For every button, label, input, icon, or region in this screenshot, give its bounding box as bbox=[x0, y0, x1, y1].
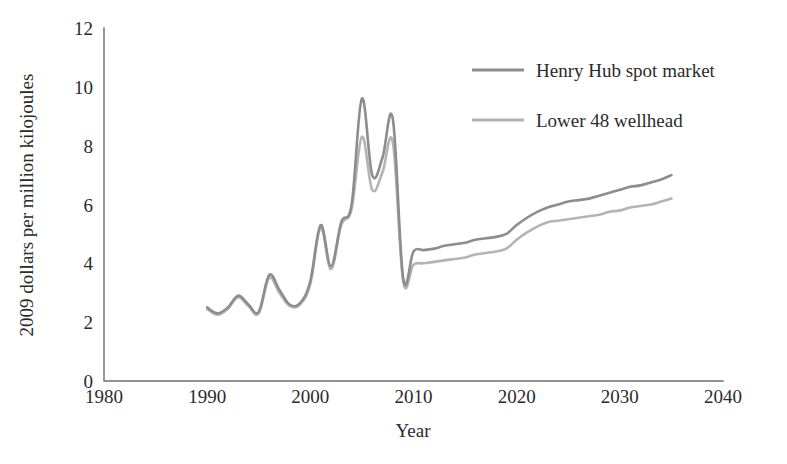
x-axis-title: Year bbox=[395, 420, 431, 441]
y-tick-label: 8 bbox=[84, 136, 94, 157]
x-tick-label: 2020 bbox=[498, 386, 536, 407]
y-tick-label: 12 bbox=[74, 18, 93, 39]
line-chart: 024681012 1980199020002010202020302040 Y… bbox=[0, 0, 787, 464]
y-tick-label: 10 bbox=[74, 77, 93, 98]
x-tick-label: 2010 bbox=[395, 386, 433, 407]
chart-figure: 024681012 1980199020002010202020302040 Y… bbox=[0, 0, 787, 464]
legend-label: Lower 48 wellhead bbox=[536, 110, 683, 131]
y-tick-label: 6 bbox=[84, 195, 94, 216]
y-axis-title: 2009 dollars per million kilojoules bbox=[16, 74, 37, 337]
x-tick-label: 2030 bbox=[601, 386, 639, 407]
x-tick-label: 2040 bbox=[704, 386, 742, 407]
x-tick-label: 1980 bbox=[85, 386, 123, 407]
x-tick-label: 1990 bbox=[188, 386, 226, 407]
y-tick-label: 2 bbox=[84, 312, 94, 333]
y-tick-label: 4 bbox=[84, 253, 94, 274]
x-tick-label: 2000 bbox=[291, 386, 329, 407]
legend-label: Henry Hub spot market bbox=[536, 60, 716, 81]
